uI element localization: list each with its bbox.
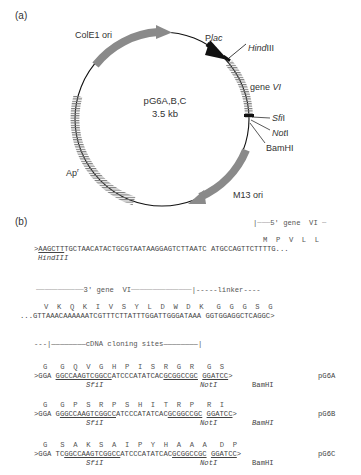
plasmid-name: pG6A,B,C	[144, 95, 187, 106]
pg6a-sequence: >GGA GGCCAAGTCGGCCATCCCATATCACGCGGCCGC G…	[34, 372, 232, 380]
seq-end: >	[232, 410, 236, 418]
pre-sfi: TC	[56, 450, 65, 458]
pg6c-sfii-label: SfiI	[86, 459, 103, 467]
seq-start: >GGA	[34, 410, 56, 418]
mid-seq: ATCCCATATCAC	[120, 450, 172, 458]
row1-sequence: >AAGCTTTGCTAACATACTGCGTAATAAGGAGTCTTAATC…	[34, 245, 289, 253]
label-gene-vi: gene VI	[250, 82, 282, 92]
seq-upstream: TGCTAACATACTGCGTAATAAGGAGTCTTAATC	[64, 245, 206, 253]
label-m13-ori: M13 ori	[233, 190, 263, 200]
pg6b-sequence: >GGA GGGCCAAGTCGGCCATCCCATATCACGCGGCCGC …	[34, 410, 237, 418]
pg6c-name: pG6C	[318, 450, 335, 458]
noti-site-seq: GCGGCCGC	[172, 450, 207, 458]
bamhi-site-seq: GGATCC	[207, 410, 233, 418]
label-hindiii: HindIII	[248, 43, 274, 53]
pg6a-amino-acids: G G Q V G H P I S R G R G S	[43, 363, 224, 371]
row2-amino-acids: V K Q K I V S Y L D W D K G G G S G	[44, 303, 273, 311]
noti-site-seq: GCGGCCGC	[163, 372, 198, 380]
label-noti: NotI	[272, 128, 289, 138]
seq-end: >	[228, 372, 232, 380]
seq-end: >	[237, 450, 241, 458]
mid-seq: ATCCCATATCAC	[116, 410, 168, 418]
gene-vi-3-header: ┈┈┈┈┈┈┈┈┈┈┈3' gene VI┈┈┈┈┈┈┈┈┈┈┈┈┈┈|----…	[36, 285, 261, 294]
sfii-site-seq: GGCCAAGTCGGCC	[64, 450, 120, 458]
pg6b-amino-acids: G G P S R P S H I T R P R I	[43, 401, 224, 409]
gene-vi-region	[229, 63, 249, 118]
sfii-site-seq: GGCCAAGTCGGCC	[60, 410, 116, 418]
pg6c-noti-label: NotI	[200, 459, 217, 467]
cloning-sites-header: ---|————————cDNA cloning sites————————|	[34, 340, 202, 348]
seq-gene-vi-start: ATGCCAGTTCTTTTG...	[211, 245, 289, 253]
pg6b-sfii-label: SfiI	[86, 419, 103, 427]
gene-vi-5-header: |┈┈┈5' gene VI ┈	[253, 218, 326, 227]
pg6a-bamhi-label: BamHI	[252, 381, 274, 389]
pg6a-sfii-label: SfiI	[86, 381, 103, 389]
panel-b-label: (b)	[15, 216, 27, 227]
label-apr: Apr	[66, 167, 79, 178]
pg6b-name: pG6B	[318, 410, 335, 418]
pg6a-noti-label: NotI	[200, 381, 217, 389]
plasmid-map: ColE1 ori Plac HindIII gene VI SfiI NotI…	[0, 0, 361, 225]
seq-start: >GGA	[34, 372, 56, 380]
pg6c-amino-acids: G S A K S A I P Y H A A A D P	[43, 441, 237, 449]
plasmid-size: 3.5 kb	[152, 108, 178, 119]
hindiii-site-seq: AAGCTT	[38, 245, 64, 253]
noti-site-seq: GCGGCCGC	[168, 410, 203, 418]
bamhi-site-seq: GGATCC	[202, 372, 228, 380]
bamhi-site-seq: GGATCC	[211, 450, 237, 458]
label-sfii: SfiI	[272, 113, 285, 123]
label-cole1-ori: ColE1 ori	[75, 30, 112, 40]
row2-sequence: ...GTTAAACAAAAAATCGTTTCTTATTTGGATTGGGATA…	[20, 312, 274, 320]
pg6c-sequence: >GGA TCGGCCAAGTCGGCCATCCCATATCACGCGGCCGC…	[34, 450, 241, 458]
label-plac: Plac	[205, 33, 223, 43]
label-bamhi: BamHI	[266, 143, 294, 153]
mid-seq: ATCCCATATCAC	[112, 372, 164, 380]
cloning-site-marker	[244, 114, 254, 117]
seq-start: >GGA	[34, 450, 56, 458]
pg6a-name: pG6A	[318, 372, 335, 380]
pg6b-bamhi-label: BamHI	[252, 419, 274, 427]
row1-amino-acids: M P V L L	[263, 236, 319, 244]
hindiii-label: HindIII	[38, 254, 68, 262]
pg6b-noti-label: NotI	[200, 419, 217, 427]
sfii-site-seq: GGCCAAGTCGGCC	[56, 372, 112, 380]
apr-region	[75, 96, 134, 201]
pg6c-bamhi-label: BamHI	[252, 459, 274, 467]
